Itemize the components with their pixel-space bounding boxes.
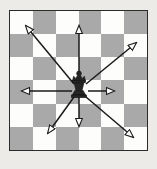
queen-movement-figure <box>0 0 157 169</box>
queen-piece <box>0 0 157 169</box>
queen-base <box>71 95 86 98</box>
queen-body <box>74 83 84 91</box>
queen-skirt <box>72 91 85 95</box>
queen-collar <box>72 80 85 82</box>
queen-crown <box>73 76 86 81</box>
